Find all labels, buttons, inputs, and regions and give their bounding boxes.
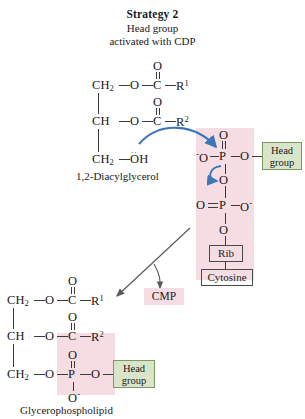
product-r2-sup: 2 [99, 329, 103, 339]
double-bond-p-c1-a [71, 287, 72, 294]
product-c3-group: CH2 [7, 367, 29, 382]
reaction-arrow [117, 228, 190, 296]
product-c3-sub: 2 [25, 372, 29, 382]
product-head-linking-oxygen: O [91, 367, 100, 382]
mechanism-arrow-layer [0, 0, 305, 419]
nucleophilic-attack-arrow [139, 128, 216, 147]
product-c1-carbonyl-carbon: C [68, 293, 76, 308]
product-c1-label: CH [7, 293, 25, 307]
bond-p-o-to-phosphorus [57, 374, 68, 375]
double-bond-p-phosphate-b [74, 361, 75, 368]
product-head-group-line1: Head [118, 363, 150, 375]
product-c1-group: CH2 [7, 293, 29, 308]
bond-p-backbone-c2-c3 [13, 344, 14, 367]
cmp-release-arrow [154, 264, 160, 288]
bond-cleavage-arrow [210, 166, 221, 181]
bond-p-c3-to-o [34, 374, 45, 375]
double-bond-p-c2-a [71, 323, 72, 330]
bond-p-o-to-headgroup [103, 374, 113, 375]
bond-p-c1-to-o [34, 300, 45, 301]
product-phosphate-anion-charge: - [77, 389, 80, 399]
product-r2-group: R2 [91, 329, 104, 345]
product-r1-group: R1 [91, 293, 104, 309]
product-head-group-box: Head group [113, 360, 155, 388]
product-phosphate-double-oxygen: O [68, 348, 77, 363]
product-head-group-line2: group [118, 375, 150, 387]
product-c2-label: CH [7, 329, 25, 344]
product-phosphorus: P [68, 367, 75, 382]
product-c1-sub: 2 [25, 298, 29, 308]
product-c3-label: CH [7, 367, 25, 381]
double-bond-p-phosphate-a [71, 361, 72, 368]
product-c2-carbonyl-carbon: C [68, 329, 76, 344]
figure-canvas: Strategy 2 Head group activated with CDP… [0, 0, 305, 419]
bond-p-c2-to-o [34, 336, 45, 337]
product-phosphate-anion-label: O [68, 391, 77, 405]
double-bond-p-c2-b [74, 323, 75, 330]
product-phosphoester-oxygen: O [45, 367, 54, 382]
product-c1-ester-oxygen: O [45, 293, 54, 308]
cmp-byproduct-label: CMP [144, 288, 184, 305]
product-r1-sup: 1 [99, 293, 103, 303]
bond-p-phosphorus-to-o [80, 374, 91, 375]
product-c2-ester-oxygen: O [45, 329, 54, 344]
product-caption: Glycerophospholipid [20, 404, 113, 416]
bond-p-backbone-c1-c2 [13, 308, 14, 329]
bond-p-o-to-c2carbonyl [57, 336, 68, 337]
bond-p-c1carbonyl-to-r1 [80, 300, 91, 301]
bond-p-o-to-c1carbonyl [57, 300, 68, 301]
bond-p-c2carbonyl-to-r2 [80, 336, 91, 337]
product-c1-carbonyl-oxygen: O [68, 274, 77, 289]
product-c2-carbonyl-oxygen: O [68, 310, 77, 325]
double-bond-p-c1-b [74, 287, 75, 294]
